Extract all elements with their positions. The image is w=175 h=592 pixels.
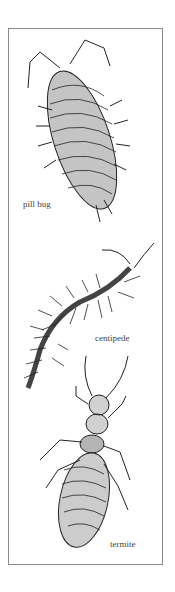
centipede-illustration <box>24 243 154 388</box>
label-termite: termite <box>110 539 136 549</box>
label-pill-bug: pill bug <box>23 199 51 209</box>
illustration-canvas <box>0 0 175 592</box>
termite-illustration <box>40 356 130 552</box>
pill-bug-illustration <box>28 40 131 222</box>
label-centipede: centipede <box>95 333 129 343</box>
